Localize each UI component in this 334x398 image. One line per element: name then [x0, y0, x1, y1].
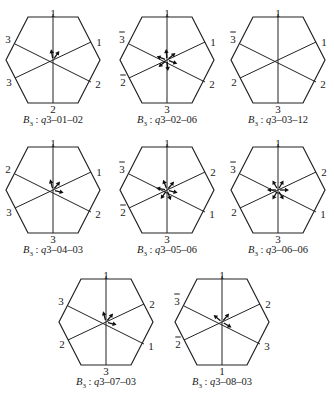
- axis-label-top: 1: [164, 138, 170, 149]
- axis-label-lr: 2: [320, 79, 326, 90]
- hexagon-panel-q3-07-03: 133221B3 : q3–07–03: [51, 272, 161, 398]
- panel-caption: B3 : q3–03–12: [223, 114, 333, 128]
- axis-label-ur: 1: [210, 37, 216, 48]
- panel-caption: B3 : q3–02–06: [112, 114, 222, 128]
- caption-code: 3–05–06: [160, 244, 197, 255]
- panel-caption: B3 : q3–08–03: [167, 376, 277, 390]
- axis-label-lr: 2: [95, 209, 101, 220]
- axis-label-lr: 3: [264, 341, 270, 352]
- axis-label-ul: 2: [5, 164, 11, 175]
- axis-label-ur: 1: [96, 167, 102, 178]
- axis-label-top: 1: [50, 8, 56, 19]
- axis-label-ul: 3: [5, 34, 11, 45]
- caption-subscript: 3: [143, 250, 147, 258]
- hexagon-panel-q3-08-03: 113223B3 : q3–08–03: [167, 272, 277, 398]
- caption-code: 3–01–02: [46, 114, 83, 125]
- caption-code: 3–04–03: [46, 244, 83, 255]
- axis-label-ul: 3: [230, 164, 236, 175]
- axis-label-ur: 1: [96, 37, 102, 48]
- hexagon-panel-q3-04-03: 132312B3 : q3–04–03: [0, 140, 108, 270]
- hexagon-panel-q3-06-06: 133221B3 : q3–06–06: [223, 140, 333, 270]
- axis-label-ll: 2: [231, 207, 237, 218]
- axis-label-lr: 2: [95, 79, 101, 90]
- arrowhead-icon: [285, 188, 289, 193]
- axis-label-ur: 2: [321, 167, 327, 178]
- caption-code: 3–03–12: [271, 114, 308, 125]
- axis-label-ul: 3: [58, 296, 64, 307]
- axis-label-bottom: 3: [164, 104, 170, 115]
- panel-caption: B3 : q3–05–06: [112, 244, 222, 258]
- axis-label-ll: 2: [59, 339, 65, 350]
- caption-code: 3–02–06: [160, 114, 197, 125]
- axis-label-top: 1: [219, 270, 225, 281]
- axis-label-top: 1: [275, 8, 281, 19]
- caption-subscript: 3: [29, 120, 33, 128]
- arrowhead-icon: [59, 190, 63, 194]
- axis-label-ul: 3: [230, 34, 236, 45]
- hexagon-panel-q3-05-06: 133221B3 : q3–05–06: [112, 140, 222, 270]
- caption-code: 3–06–06: [271, 244, 308, 255]
- axis-label-lr: 1: [209, 209, 215, 220]
- arrowhead-icon: [173, 190, 177, 194]
- axis-label-ul: 3: [119, 34, 125, 45]
- axis-label-ll: 3: [6, 207, 12, 218]
- arrowhead-icon: [165, 67, 170, 71]
- axis-label-ll: 2: [231, 77, 237, 88]
- caption-code: 3–08–03: [215, 376, 252, 387]
- axis-label-ll: 2: [120, 77, 126, 88]
- axis-label-ul: 3: [174, 296, 180, 307]
- axis-label-ll: 3: [6, 77, 12, 88]
- axis-label-bottom: 2: [50, 104, 56, 115]
- axis-label-ur: 2: [210, 167, 216, 178]
- axis-label-bottom: 3: [275, 104, 281, 115]
- panel-caption: B3 : q3–06–06: [223, 244, 333, 258]
- panel-caption: B3 : q3–04–03: [0, 244, 108, 258]
- axis-label-ur: 1: [321, 37, 327, 48]
- arrowhead-icon: [164, 49, 169, 53]
- caption-subscript: 3: [254, 120, 258, 128]
- axis-label-bottom: 3: [103, 366, 109, 377]
- axis-label-top: 1: [103, 270, 109, 281]
- arrowhead-icon: [156, 187, 160, 192]
- caption-subscript: 3: [198, 382, 202, 390]
- hexagon-panel-q3-02-06: 133212B3 : q3–02–06: [112, 10, 222, 140]
- axis-label-top: 1: [50, 138, 56, 149]
- axis-label-bottom: 3: [50, 234, 56, 245]
- axis-label-bottom: 3: [275, 234, 281, 245]
- caption-subscript: 3: [143, 120, 147, 128]
- axis-label-ur: 2: [265, 299, 271, 310]
- axis-label-bottom: 1: [219, 366, 225, 377]
- hexagon-panel-q3-03-12: 133212B3 : q3–03–12: [223, 10, 333, 140]
- caption-code: 3–07–03: [99, 376, 136, 387]
- axis-label-ul: 3: [119, 164, 125, 175]
- axis-label-lr: 1: [320, 209, 326, 220]
- arrowhead-icon: [112, 322, 116, 326]
- axis-label-ll: 2: [175, 339, 181, 350]
- axis-label-lr: 2: [209, 79, 215, 90]
- panel-caption: B3 : q3–01–02: [0, 114, 108, 128]
- hexagon-panel-q3-01-02: 123312B3 : q3–01–02: [0, 10, 108, 140]
- axis-label-bottom: 3: [164, 234, 170, 245]
- axis-label-ur: 2: [149, 299, 155, 310]
- axis-label-ll: 2: [120, 207, 126, 218]
- caption-subscript: 3: [254, 250, 258, 258]
- axis-label-top: 1: [164, 8, 170, 19]
- axis-label-top: 1: [275, 138, 281, 149]
- axis-label-lr: 1: [148, 341, 154, 352]
- caption-subscript: 3: [82, 382, 86, 390]
- caption-subscript: 3: [29, 250, 33, 258]
- panel-caption: B3 : q3–07–03: [51, 376, 161, 390]
